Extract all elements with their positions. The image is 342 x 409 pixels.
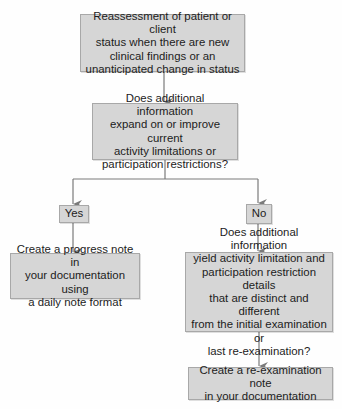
reexam-note-box: Create a re-examination note in your doc… bbox=[188, 367, 333, 400]
start-box: Reassessment of patient or client status… bbox=[80, 14, 245, 72]
yes-label-box: Yes bbox=[59, 205, 89, 223]
question1-box: Does additional information expand on or… bbox=[92, 103, 238, 160]
progress-note-box: Create a progress note in your documenta… bbox=[10, 253, 140, 299]
question2-box: Does additional information yield activi… bbox=[185, 252, 333, 332]
no-label-box: No bbox=[246, 204, 272, 224]
